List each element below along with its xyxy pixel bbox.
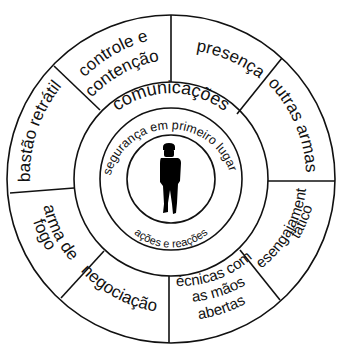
middle-ring-label-comunicacoes: comunicações (108, 77, 233, 114)
segment-label-outras-armas: outras armas (265, 73, 321, 173)
person-silhouette-icon (160, 143, 181, 214)
inner-ring-label-acoes: ações e reações (133, 225, 210, 249)
segment-label-negociacao: negociação (78, 260, 159, 315)
segment-label-bastao-retratil: bastão retrátil (15, 77, 65, 182)
use-of-force-wheel-diagram: presença outras armas desengajamento tát… (0, 0, 337, 357)
divider-left (10, 188, 74, 193)
segment-label-presenca: presença (195, 36, 269, 82)
